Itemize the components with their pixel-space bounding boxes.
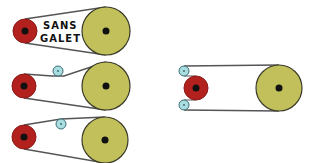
config-idler-near-drive [12,62,130,110]
idler-hub-icon [57,70,59,72]
title-line-2: GALET [40,33,81,44]
driven-hub-icon [103,83,110,90]
drive-hub-icon [21,83,28,90]
config-two-idlers [179,65,302,111]
config-no-idler: SANS GALET [13,7,130,55]
driven-hub-icon [102,137,109,144]
drive-hub-icon [22,28,29,35]
idler-hub-icon [60,123,62,125]
belt-pulley-diagram: SANS GALET [0,0,314,163]
driven-hub-icon [276,85,283,92]
idler-hub-icon [183,70,185,72]
drive-hub-icon [21,134,28,141]
belt-bottom [184,110,279,111]
drive-hub-icon [193,85,200,92]
idler-hub-icon [183,104,185,106]
config-idler-mid [12,117,128,163]
belt-top [184,65,279,66]
title-line-1: SANS [43,20,78,31]
driven-hub-icon [103,28,110,35]
